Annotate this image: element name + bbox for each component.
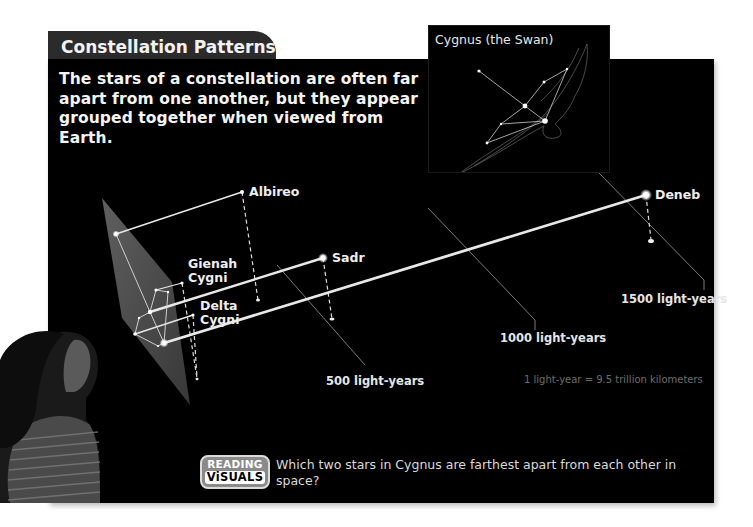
- reading-visuals-question: Which two stars in Cygnus are farthest a…: [276, 457, 696, 489]
- label-gienah-cygni: Gienah Cygni: [188, 257, 237, 285]
- distance-marker-lines: [277, 172, 704, 365]
- cygnus-inset: Cygnus (the Swan): [429, 26, 609, 172]
- label-delta-line1: Delta: [200, 298, 238, 313]
- distance-1500: 1500 light-years: [621, 292, 727, 306]
- star-deneb: [643, 192, 649, 198]
- light-year-note: 1 light-year = 9.5 trillion kilometers: [524, 374, 703, 385]
- inset-title: Cygnus (the Swan): [435, 32, 553, 47]
- star-delta: [191, 313, 194, 316]
- star-markers: [180, 189, 652, 317]
- dashed-drop-lines: [182, 192, 651, 378]
- label-gienah-line2: Cygni: [188, 270, 227, 285]
- label-delta-cygni: Delta Cygni: [200, 299, 239, 327]
- sky-plane: [102, 198, 190, 405]
- label-gienah-line1: Gienah: [188, 256, 237, 271]
- distance-500: 500 light-years: [326, 374, 424, 388]
- label-delta-line2: Cygni: [200, 312, 239, 327]
- observer-person: [0, 331, 100, 503]
- badge-bottom-text: ViSUALS: [205, 471, 265, 484]
- label-sadr: Sadr: [332, 251, 365, 265]
- intro-text: The stars of a constellation are often f…: [59, 70, 419, 148]
- label-deneb: Deneb: [655, 188, 700, 202]
- reading-visuals-badge: READING ViSUALS: [200, 455, 270, 489]
- distance-1000: 1000 light-years: [500, 331, 606, 345]
- star-albireo: [240, 190, 244, 194]
- swan-illustration: [429, 26, 609, 172]
- label-albireo: Albireo: [249, 185, 299, 199]
- star-gienah: [180, 281, 183, 284]
- star-sadr: [321, 256, 326, 261]
